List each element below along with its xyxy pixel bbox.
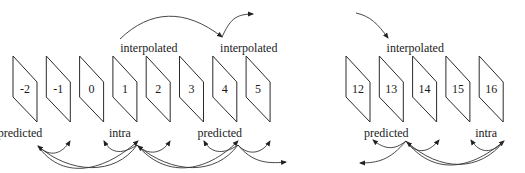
top-arrow-curve-left <box>120 16 222 39</box>
frame-number: 3 <box>189 82 195 96</box>
frame-2: 2 <box>146 56 170 122</box>
frame-16: 16 <box>479 56 503 122</box>
frame-5: 5 <box>246 56 270 122</box>
label-interpolated: interpolated <box>120 41 177 55</box>
top-arrow-curve-incoming <box>356 13 388 38</box>
label-predicted: predicted <box>0 126 42 140</box>
prediction-arcs-left <box>38 141 286 168</box>
frame--1: -1 <box>46 56 70 122</box>
frame-3: 3 <box>180 56 204 122</box>
frame-number: 15 <box>452 82 464 96</box>
frame-number: 5 <box>255 82 261 96</box>
frames-layer: -2-10123451213141516 <box>13 56 503 122</box>
frame-15: 15 <box>446 56 470 122</box>
label-interpolated: interpolated <box>220 41 277 55</box>
frame-0: 0 <box>80 56 104 122</box>
prediction-arcs-right <box>360 140 504 165</box>
frame--2: -2 <box>13 56 37 122</box>
frame-number: -2 <box>20 82 30 96</box>
frame-sequence-diagram: -2-10123451213141516 interpolatedinterpo… <box>0 0 525 173</box>
frame-13: 13 <box>379 56 403 122</box>
frame-4: 4 <box>213 56 237 122</box>
frame-number: -1 <box>53 82 63 96</box>
label-predicted: predicted <box>197 126 242 140</box>
label-intra: intra <box>475 126 498 140</box>
top-arrow-curve-right <box>222 14 253 37</box>
label-intra: intra <box>109 126 132 140</box>
frame-number: 12 <box>352 82 364 96</box>
frame-number: 14 <box>419 82 431 96</box>
frame-number: 1 <box>122 82 128 96</box>
frame-number: 13 <box>385 82 397 96</box>
frame-1: 1 <box>113 56 137 122</box>
frame-number: 4 <box>222 82 228 96</box>
frame-number: 2 <box>155 82 161 96</box>
frame-number: 16 <box>485 82 497 96</box>
label-predicted: predicted <box>364 126 409 140</box>
frame-12: 12 <box>346 56 370 122</box>
label-interpolated: interpolated <box>387 41 444 55</box>
frame-14: 14 <box>413 56 437 122</box>
frame-number: 0 <box>89 82 95 96</box>
